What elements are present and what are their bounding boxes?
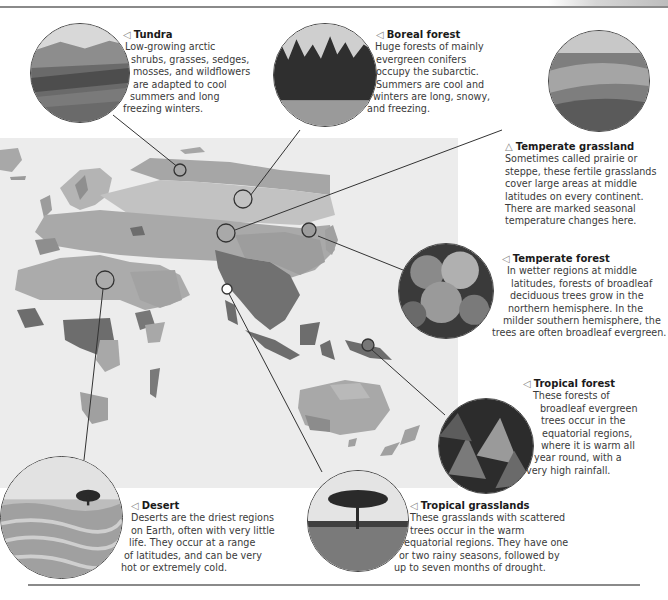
caption-tundra: ◁Tundra Low-growing arctic shrubs, grass…	[123, 29, 250, 116]
leader-line-desert	[84, 289, 103, 460]
photo-temperate-forest	[398, 243, 494, 339]
photo-tropical-forest	[438, 398, 534, 494]
photo-temperate-grassland	[548, 30, 650, 132]
indonesia-forest	[245, 330, 300, 360]
caption-temperate-forest: ◁Temperate forest In wetter regions at m…	[502, 253, 666, 340]
triangle-left-icon: ◁	[523, 378, 531, 389]
caption-title: △Temperate grassland	[505, 141, 656, 153]
marker-desert	[96, 271, 114, 289]
triangle-left-icon: ◁	[131, 500, 139, 511]
greenland-landmass	[0, 148, 22, 172]
caption-tropical-forest: ◁Tropical forest These forests of broadl…	[523, 378, 638, 477]
triangle-left-icon: ◁	[410, 500, 418, 511]
marker-tundra	[174, 164, 186, 176]
bottom-rule	[28, 584, 640, 586]
leader-line-tundra	[113, 115, 179, 168]
marker-boreal	[234, 190, 252, 208]
marker-tropical-forest	[362, 339, 374, 351]
triangle-up-icon: △	[505, 141, 513, 152]
triangle-left-icon: ◁	[123, 29, 131, 40]
triangle-left-icon: ◁	[502, 253, 510, 264]
triangle-left-icon: ◁	[376, 29, 384, 40]
caption-title: ◁Tropical grasslands	[410, 500, 568, 512]
photo-boreal-forest	[273, 23, 377, 127]
caption-title: ◁Tundra	[123, 29, 250, 41]
photo-desert	[0, 456, 123, 579]
caption-title: ◁Boreal forest	[376, 29, 490, 41]
caption-title: ◁Desert	[131, 500, 275, 512]
marker-temperate-grassland	[217, 224, 235, 242]
caption-desert: ◁Desert Deserts are the driest regions o…	[120, 500, 275, 574]
marker-temperate-forest	[302, 223, 316, 237]
photo-tropical-grasslands	[307, 470, 409, 572]
caption-title: ◁Temperate forest	[502, 253, 666, 265]
caption-tropical-grasslands: ◁Tropical grasslands These grasslands wi…	[398, 500, 568, 574]
caption-temperate-grassland: △Temperate grassland Sometimes called pr…	[505, 141, 656, 228]
caption-boreal-forest: ◁Boreal forest Huge forests of mainly ev…	[376, 29, 490, 116]
marker-tropical-grassland	[222, 284, 232, 294]
caption-title: ◁Tropical forest	[523, 378, 638, 390]
photo-tundra	[30, 23, 130, 123]
